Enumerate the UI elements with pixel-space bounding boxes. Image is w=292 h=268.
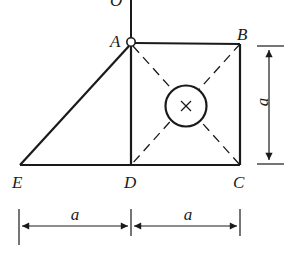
label-O: O bbox=[110, 0, 122, 10]
label-B: B bbox=[237, 25, 248, 44]
hinge-A bbox=[127, 38, 135, 46]
label-dim-bottom-right: a bbox=[184, 205, 193, 224]
label-A: A bbox=[109, 32, 121, 51]
label-dim-vertical: a bbox=[253, 98, 272, 107]
label-C: C bbox=[233, 173, 245, 192]
label-E: E bbox=[11, 173, 23, 192]
diagram-canvas: O A B C D E a a a bbox=[0, 0, 292, 268]
label-dim-bottom-left: a bbox=[71, 205, 80, 224]
triangle-plate bbox=[20, 46, 131, 165]
label-D: D bbox=[123, 173, 137, 192]
dimension-bottom bbox=[19, 209, 240, 245]
